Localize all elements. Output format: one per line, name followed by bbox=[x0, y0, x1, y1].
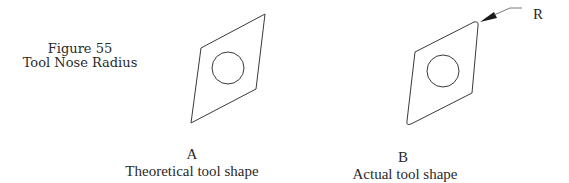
radius-label: R bbox=[531, 6, 545, 22]
shape-a-caption: Theoretical tool shape bbox=[122, 163, 262, 179]
figure-title: Tool Nose Radius bbox=[20, 56, 140, 70]
radius-leader bbox=[480, 8, 522, 22]
actual-insert-shape bbox=[407, 22, 478, 125]
leader-line bbox=[494, 8, 522, 15]
insert-hole bbox=[212, 52, 244, 84]
theoretical-insert-shape bbox=[191, 14, 265, 123]
shape-b-caption: Actual tool shape bbox=[345, 166, 465, 182]
insert-hole bbox=[427, 55, 459, 87]
shape-b-letter: B bbox=[393, 149, 413, 165]
insert-outline-sharp bbox=[191, 14, 265, 123]
shape-a-letter: A bbox=[182, 146, 202, 162]
arrowhead-icon bbox=[480, 12, 497, 22]
insert-outline-rounded bbox=[407, 22, 478, 125]
diagram-canvas bbox=[0, 0, 569, 183]
figure-number: Figure 55 bbox=[30, 42, 130, 56]
